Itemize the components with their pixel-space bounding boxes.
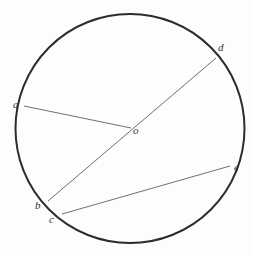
circle-outline <box>16 14 245 243</box>
point-label-e: e <box>234 162 239 173</box>
point-label-c: c <box>49 214 54 225</box>
point-label-d: d <box>218 42 224 53</box>
point-label-a: a <box>13 99 19 110</box>
point-label-o: o <box>133 125 139 136</box>
segment-a-o-radius <box>24 106 131 128</box>
circle-diagram: a b c d e o <box>0 0 253 255</box>
point-label-b: b <box>35 200 41 211</box>
segment-c-e-chord <box>62 166 230 214</box>
segment-b-d-diameter <box>48 58 216 201</box>
geometry-canvas <box>0 0 253 255</box>
